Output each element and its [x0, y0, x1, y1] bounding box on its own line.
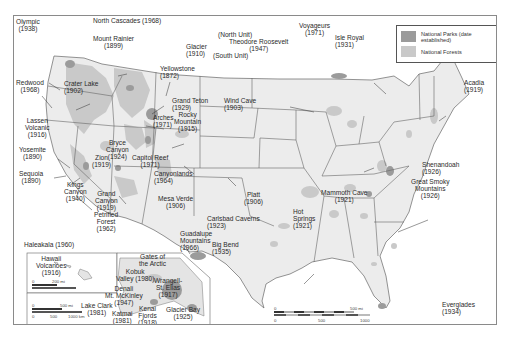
- park-label-north-cascades: North Cascades (1968): [93, 18, 161, 25]
- hawaii-scale-bar: 0 200 mi: [32, 279, 82, 293]
- map-frame: National Parks (date established) Nation…: [13, 15, 497, 325]
- park-label-yellowstone: Yellowstone(1872): [160, 66, 195, 80]
- park-label-platt: Platt(1906): [244, 192, 263, 206]
- park-label-arches: Arches(1971): [153, 115, 174, 129]
- park-label-yosemite: Yosemite(1890): [19, 147, 46, 161]
- park-label-big-bend: Big Bend(1935): [212, 242, 239, 256]
- park-label-everglades: Everglades(1934): [442, 302, 475, 316]
- park-label-isle-royal: Isle Royal(1931): [335, 35, 364, 49]
- park-label-kings-canyon: KingsCanyon(1940): [64, 182, 87, 202]
- main-scale-bar: 0 500 mi 0 500 1000 km: [274, 306, 374, 324]
- park-label-mammoth-cave: Mammoth Cave(1921): [321, 190, 368, 204]
- park-label-katmai: Katmai(1981): [112, 311, 133, 325]
- park-label-great-smoky-mountains: Great SmokyMountains(1926): [411, 179, 449, 199]
- park-label-hawaii-volcanoes: HawaiiVolcanoes(1916): [36, 256, 66, 276]
- legend-label: National Forests: [421, 49, 462, 55]
- park-label-wrangell-st-elias: Wrangell-St. Elias(1917): [154, 278, 182, 298]
- park-label-grand-canyon: GrandCanyon(1919): [95, 191, 118, 211]
- legend-item-forests: National Forests: [401, 46, 462, 57]
- park-label-grand-teton: Grand Teton(1929): [172, 98, 208, 112]
- hawaii-inset-header: Haleakala (1960): [24, 242, 74, 249]
- park-label-guadalupe-mountains: GuadalupeMountains(1966): [180, 231, 212, 251]
- legend: National Parks (date established) Nation…: [396, 25, 497, 63]
- park-label-capitol-reef: Capitol Reef(1971): [132, 155, 168, 169]
- park-label-olympic: Olympic(1938): [16, 19, 40, 33]
- park-label-rocky-mountain: RockyMountain(1915): [174, 112, 201, 132]
- park-label-shenandoah: Shenandoah(1926): [422, 162, 459, 176]
- park-label-mesa-verde: Mesa Verde(1906): [158, 196, 193, 210]
- forest-swatch-icon: [401, 46, 416, 57]
- park-label-wind-cave: Wind Cave(1903): [224, 98, 256, 112]
- park-label-theodore-roosevelt-south: (South Unit): [213, 53, 248, 60]
- park-label-kenai-fjords: KenaiFjords(1918): [138, 306, 157, 325]
- park-label-kobuk-valley: KobukValley (1980): [116, 269, 154, 283]
- park-label-crater-lake: Crater Lake(1902): [64, 81, 98, 95]
- park-label-voyageurs: Voyageurs(1971): [299, 23, 330, 37]
- park-label-lassen-volcanic: LassenVolcanic(1916): [25, 118, 50, 138]
- park-label-glacier-bay: Glacier Bay(1925): [166, 307, 200, 321]
- legend-item-parks: National Parks (date established): [401, 31, 497, 42]
- park-label-petrified-forest: PetrifiedForest(1962): [94, 212, 118, 232]
- legend-label: National Parks (date established): [421, 31, 497, 43]
- park-label-mount-rainier: Mount Rainier(1899): [93, 36, 134, 50]
- park-label-redwood: Redwood(1968): [16, 80, 44, 94]
- park-label-sequoia: Sequoia(1890): [19, 171, 43, 185]
- park-label-acadia: Acadia(1919): [464, 80, 484, 94]
- park-label-theodore-roosevelt: Theodore Roosevelt(1947): [229, 39, 288, 53]
- park-label-canyonlands: Canyonlands(1964): [154, 171, 193, 185]
- park-label-hot-springs: HotSprings(1921): [293, 209, 315, 229]
- park-label-glacier: Glacier(1910): [186, 44, 207, 58]
- park-swatch-icon: [401, 31, 416, 42]
- park-label-gates-of-the-arctic: Gates ofthe Arctic: [139, 254, 166, 268]
- alaska-scale-bar: 0 500 mi 0 500 1000 km: [32, 303, 92, 321]
- park-label-carlsbad-caverns: Carlsbad Caverns(1923): [207, 216, 260, 230]
- park-label-zion: Zion(1919): [92, 155, 111, 169]
